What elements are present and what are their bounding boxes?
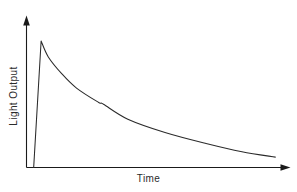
- y-axis-label-container: Light Output: [0, 0, 26, 192]
- y-axis-label: Light Output: [8, 66, 19, 125]
- chart-plot-area: [0, 0, 297, 192]
- chart-figure: Light Output Time: [0, 0, 297, 192]
- light-output-curve: [34, 41, 276, 168]
- x-axis-arrow-icon: [281, 164, 291, 171]
- x-axis-label: Time: [0, 173, 297, 184]
